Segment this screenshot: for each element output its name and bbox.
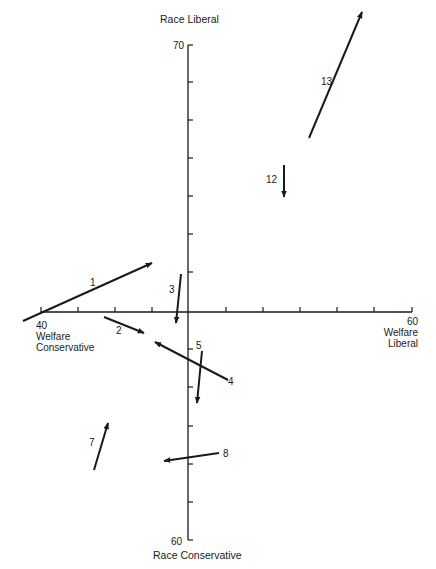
x-axis-max-caption-line1: Welfare (370, 327, 418, 338)
arrow-8 (164, 453, 219, 461)
x-axis-max-caption-line2: Liberal (370, 338, 418, 349)
arrow-2 (104, 317, 144, 333)
arrow-4 (155, 342, 228, 380)
y-axis-max-caption: Race Liberal (160, 14, 219, 25)
arrow-label-5: 5 (196, 340, 202, 351)
arrow-label-3: 3 (169, 284, 175, 295)
x-axis-min-label: 40 (36, 320, 47, 331)
arrow-label-12: 12 (266, 174, 277, 185)
y-axis-min-caption: Race Conservative (153, 550, 242, 561)
x-axis-min-caption-line2: Conservative (36, 342, 94, 353)
y-axis-min-label: 60 (162, 536, 182, 547)
arrow-label-8: 8 (223, 448, 229, 459)
arrow-label-4: 4 (228, 376, 234, 387)
axes (41, 45, 412, 540)
arrow-label-13: 13 (321, 76, 332, 87)
arrow-13 (309, 12, 362, 138)
arrow-label-7: 7 (89, 437, 95, 448)
y-axis-max-label: 70 (164, 40, 184, 51)
arrow-label-2: 2 (116, 325, 122, 336)
arrow-label-1: 1 (90, 277, 96, 288)
arrow-chart (0, 0, 436, 569)
arrow-3 (176, 274, 181, 323)
arrows (23, 12, 362, 470)
arrow-7 (94, 423, 108, 470)
x-axis-max-label: 60 (380, 316, 418, 327)
x-axis-min-caption-line1: Welfare (36, 331, 70, 342)
arrow-5 (197, 351, 202, 403)
